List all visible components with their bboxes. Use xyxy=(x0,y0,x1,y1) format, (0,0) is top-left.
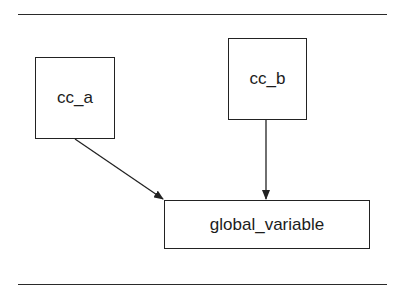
node-global-variable: global_variable xyxy=(164,200,370,249)
node-cc-a-label: cc_a xyxy=(57,88,93,108)
bottom-divider xyxy=(18,284,387,285)
node-cc-b-label: cc_b xyxy=(250,69,286,89)
edge-cc-a-to-global-variable xyxy=(75,139,163,199)
node-cc-b: cc_b xyxy=(228,38,307,120)
node-global-variable-label: global_variable xyxy=(210,215,324,235)
node-cc-a: cc_a xyxy=(35,57,115,139)
